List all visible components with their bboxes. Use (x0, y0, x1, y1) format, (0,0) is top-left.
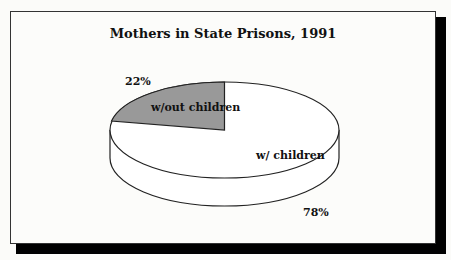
slice2-name-label: w/ children (256, 149, 325, 162)
pie-chart (0, 0, 451, 260)
slice1-name-label: w/out children (151, 101, 240, 114)
slice1-percent-label: 22% (125, 75, 151, 88)
slice2-percent-label: 78% (303, 206, 329, 219)
